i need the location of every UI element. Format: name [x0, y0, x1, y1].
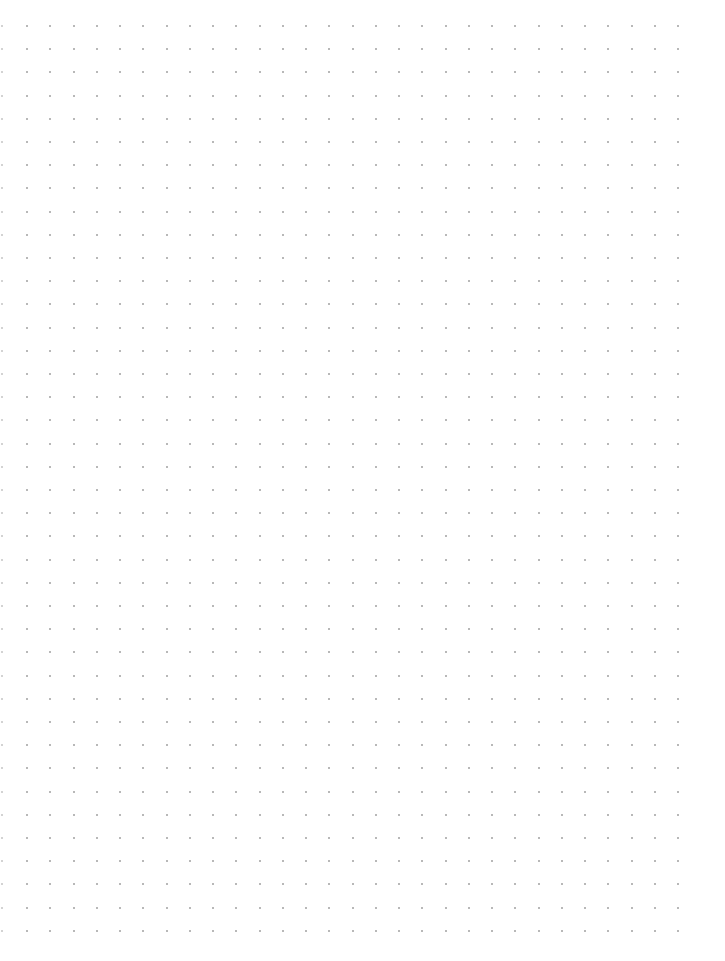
grid-dot [421, 419, 423, 421]
grid-dot [398, 419, 400, 421]
grid-dot [235, 535, 237, 537]
grid-dot [73, 535, 75, 537]
grid-dot [584, 582, 586, 584]
grid-dot-edge [1, 791, 3, 793]
grid-dot [166, 141, 168, 143]
grid-dot [282, 373, 284, 375]
grid-dot [421, 791, 423, 793]
grid-dot [49, 767, 51, 769]
grid-dot [677, 327, 679, 329]
grid-dot [166, 373, 168, 375]
grid-dot [259, 327, 261, 329]
grid-dot-edge [1, 419, 3, 421]
grid-dot [468, 350, 470, 352]
grid-dot [514, 744, 516, 746]
grid-dot [491, 95, 493, 97]
grid-dot [49, 744, 51, 746]
grid-dot [398, 860, 400, 862]
grid-dot [538, 443, 540, 445]
grid-dot [421, 512, 423, 514]
grid-dot [584, 837, 586, 839]
grid-dot [142, 651, 144, 653]
grid-dot [677, 605, 679, 607]
grid-dot [166, 489, 168, 491]
grid-dot [328, 512, 330, 514]
grid-dot [305, 535, 307, 537]
grid-dot [352, 907, 354, 909]
grid-dot [631, 930, 633, 932]
grid-dot [375, 350, 377, 352]
grid-dot [49, 141, 51, 143]
grid-dot [142, 744, 144, 746]
grid-dot [607, 234, 609, 236]
grid-dot [119, 907, 121, 909]
grid-dot [282, 141, 284, 143]
grid-dot [491, 327, 493, 329]
grid-dot [538, 118, 540, 120]
grid-dot [305, 373, 307, 375]
grid-dot [142, 698, 144, 700]
grid-dot [235, 559, 237, 561]
grid-dot [26, 559, 28, 561]
grid-dot [282, 187, 284, 189]
grid-dot [352, 303, 354, 305]
grid-dot [514, 257, 516, 259]
grid-dot [514, 303, 516, 305]
grid-dot [235, 211, 237, 213]
grid-dot [96, 327, 98, 329]
grid-dot [398, 187, 400, 189]
grid-dot [189, 489, 191, 491]
grid-dot [189, 837, 191, 839]
grid-dot [677, 767, 679, 769]
grid-dot [328, 303, 330, 305]
grid-dot [328, 582, 330, 584]
grid-dot [49, 535, 51, 537]
grid-dot-edge [1, 373, 3, 375]
grid-dot [166, 303, 168, 305]
grid-dot [654, 373, 656, 375]
grid-dot [73, 373, 75, 375]
grid-dot [328, 419, 330, 421]
grid-dot [677, 651, 679, 653]
grid-dot [189, 466, 191, 468]
grid-dot [421, 211, 423, 213]
grid-dot [654, 396, 656, 398]
grid-dot [375, 930, 377, 932]
grid-dot [514, 651, 516, 653]
grid-dot [73, 303, 75, 305]
grid-dot [654, 419, 656, 421]
grid-dot [538, 187, 540, 189]
grid-dot [212, 744, 214, 746]
grid-dot [49, 837, 51, 839]
grid-dot [142, 187, 144, 189]
grid-dot [398, 837, 400, 839]
grid-dot [538, 582, 540, 584]
grid-dot [398, 71, 400, 73]
grid-dot [73, 118, 75, 120]
grid-dot [607, 118, 609, 120]
grid-dot [282, 443, 284, 445]
grid-dot [514, 95, 516, 97]
grid-dot [142, 791, 144, 793]
grid-dot [538, 95, 540, 97]
grid-dot [96, 466, 98, 468]
grid-dot [398, 396, 400, 398]
grid-dot [328, 211, 330, 213]
grid-dot [49, 187, 51, 189]
grid-dot [538, 721, 540, 723]
grid-dot [328, 48, 330, 50]
grid-dot-edge [1, 883, 3, 885]
grid-dot [305, 350, 307, 352]
grid-dot [96, 234, 98, 236]
grid-dot [259, 582, 261, 584]
grid-dot [305, 48, 307, 50]
grid-dot [352, 280, 354, 282]
grid-dot [445, 721, 447, 723]
grid-dot [375, 164, 377, 166]
grid-dot [96, 605, 98, 607]
grid-dot [514, 535, 516, 537]
grid-dot [631, 211, 633, 213]
grid-dot [352, 744, 354, 746]
grid-dot [328, 814, 330, 816]
grid-dot [398, 930, 400, 932]
